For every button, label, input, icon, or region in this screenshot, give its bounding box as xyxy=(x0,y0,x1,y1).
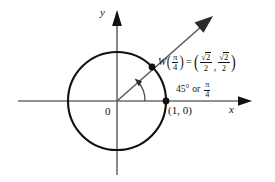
y-coordinate-fraction: √2 2 xyxy=(218,52,230,72)
x-coordinate-fraction: √2 2 xyxy=(200,52,212,72)
y-radicand: 2 xyxy=(223,52,228,62)
x-coordinate-denominator: 2 xyxy=(203,63,209,72)
coordinate-separator: , xyxy=(213,62,218,72)
x-radicand: 2 xyxy=(205,52,210,62)
four-denominator: 4 xyxy=(172,63,178,72)
terminal-point-equation: W ( π 4 ) = ( √2 2 , √2 2 ) xyxy=(158,52,236,72)
x-axis-arrowhead xyxy=(238,96,252,106)
angle-rad-denominator: 4 xyxy=(204,91,210,100)
pi-numerator: π xyxy=(172,53,178,63)
angle-measure-label: 45° or π 4 xyxy=(176,81,211,99)
close-paren-arg: ) xyxy=(180,57,184,68)
open-paren-coords: ( xyxy=(194,56,199,68)
angle-degrees-value: 45° xyxy=(176,85,189,95)
unit-point-label: (1, 0) xyxy=(168,105,192,116)
angle-or-word: or xyxy=(189,85,203,95)
y-axis-arrowhead xyxy=(112,10,122,26)
terminal-point-marker xyxy=(149,64,156,71)
y-coordinate-denominator: 2 xyxy=(221,63,227,72)
open-paren-arg: ( xyxy=(167,57,171,68)
figure-canvas xyxy=(0,0,275,182)
y-coordinate-numerator: √2 xyxy=(218,52,230,63)
angle-radians-fraction: π 4 xyxy=(204,81,210,99)
x-axis-label: x xyxy=(229,104,234,115)
origin-label: 0 xyxy=(105,106,111,117)
close-paren-coords: ) xyxy=(231,56,236,68)
y-axis-label: y xyxy=(100,7,105,18)
pi-over-4-argument: π 4 xyxy=(172,53,178,72)
unit-circle-figure: y x 0 (1, 0) W ( π 4 ) = ( √2 2 , √2 2 xyxy=(0,0,275,182)
equals-sign: = xyxy=(184,57,194,67)
W-function-name: W xyxy=(158,57,166,67)
x-coordinate-numerator: √2 xyxy=(200,52,212,63)
